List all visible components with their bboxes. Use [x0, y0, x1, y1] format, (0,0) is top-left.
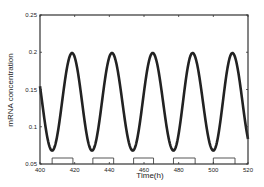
mrna-concentration-chart: 4004204404604805005200.050.10.150.20.25 …: [0, 0, 264, 187]
x-tick-label: 400: [35, 167, 46, 173]
y-tick-label: 0.1: [29, 124, 38, 130]
x-tick-label: 500: [208, 167, 219, 173]
x-tick-label: 420: [70, 167, 81, 173]
light-dark-bar: [173, 158, 195, 164]
light-dark-bar: [52, 158, 73, 164]
light-dark-bar: [213, 158, 235, 164]
x-axis-label: Time(h): [136, 171, 164, 180]
y-tick-label: 0.15: [25, 87, 37, 93]
y-tick-label: 0.2: [29, 49, 38, 55]
x-tick-label: 480: [174, 167, 185, 173]
x-tick-label: 520: [243, 167, 254, 173]
y-axis-label: mRNA concentration: [6, 53, 15, 126]
y-tick-label: 0.25: [25, 12, 37, 18]
light-dark-bar: [134, 158, 154, 164]
data-series: [40, 53, 248, 151]
light-dark-bar: [93, 158, 114, 164]
mrna-line: [40, 53, 248, 151]
axes: 4004204404604805005200.050.10.150.20.25: [25, 12, 253, 173]
light-dark-bars: [52, 158, 235, 164]
x-tick-label: 440: [104, 167, 115, 173]
y-tick-label: 0.05: [25, 161, 37, 167]
